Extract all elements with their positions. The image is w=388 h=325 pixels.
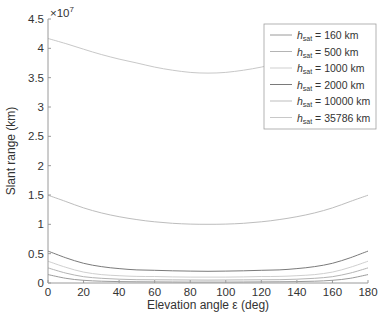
series-line-2 <box>48 261 368 277</box>
y-tick-label: 0 <box>38 277 44 289</box>
x-tick-label: 100 <box>216 286 235 298</box>
y-tick-label: 2 <box>38 160 44 172</box>
y-tick-label: 2.5 <box>28 130 44 142</box>
x-tick-label: 140 <box>287 286 306 298</box>
y-exponent-label: ×107 <box>50 5 75 19</box>
y-tick-label: 3.5 <box>28 72 44 84</box>
x-axis-label: Elevation angle ε (deg) <box>147 298 269 312</box>
x-tick-label: 160 <box>323 286 342 298</box>
x-tick-label: 180 <box>358 286 377 298</box>
x-tick-label: 20 <box>77 286 90 298</box>
y-tick-label: 4 <box>38 42 45 54</box>
slant-range-chart: 02040608010012014016018000.511.522.533.5… <box>0 0 388 325</box>
legend: hsat = 160 kmhsat = 500 kmhsat = 1000 km… <box>264 24 376 129</box>
y-tick-label: 3 <box>38 101 44 113</box>
y-tick-label: 0.5 <box>28 248 44 260</box>
y-axis-label: Slant range (km) <box>4 107 18 196</box>
y-tick-label: 4.5 <box>28 13 44 25</box>
x-tick-label: 0 <box>45 286 51 298</box>
y-tick-label: 1.5 <box>28 189 44 201</box>
series-line-3 <box>48 251 368 271</box>
x-tick-label: 80 <box>184 286 197 298</box>
x-tick-label: 40 <box>113 286 126 298</box>
x-tick-label: 60 <box>148 286 161 298</box>
x-tick-label: 120 <box>252 286 271 298</box>
y-tick-label: 1 <box>38 218 44 230</box>
series-line-4 <box>48 195 368 224</box>
